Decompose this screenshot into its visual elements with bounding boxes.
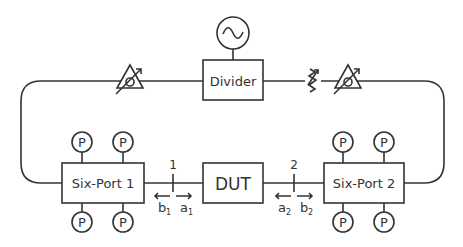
variable-attenuator-icon	[305, 69, 321, 92]
six-port-1-label: Six-Port 1	[72, 176, 134, 191]
svg-text:1: 1	[188, 208, 193, 217]
six-port-1-block: Six-Port 1	[62, 152, 144, 212]
plane-2-label: 2	[290, 158, 298, 172]
power-detector-icon: P	[113, 132, 133, 152]
dut-label: DUT	[215, 174, 252, 194]
svg-text:P: P	[380, 135, 388, 150]
svg-text:P: P	[339, 215, 347, 230]
svg-text:a: a	[278, 200, 286, 215]
svg-text:P: P	[78, 135, 86, 150]
svg-text:1: 1	[166, 208, 171, 217]
power-detector-icon: P	[374, 132, 394, 152]
svg-text:P: P	[119, 215, 127, 230]
power-detector-icon: P	[374, 212, 394, 232]
arrow-left-icon	[155, 193, 170, 199]
divider-label: Divider	[210, 74, 257, 89]
power-detector-icon: P	[72, 212, 92, 232]
divider-block: Divider	[203, 60, 263, 100]
reference-plane-2: 2 a 2 b 2	[276, 158, 313, 217]
reference-plane-1: 1 b 1 a 1	[155, 158, 193, 217]
svg-text:2: 2	[308, 208, 313, 217]
svg-text:P: P	[78, 215, 86, 230]
six-port-2-block: Six-Port 2	[324, 152, 404, 212]
dut-block: DUT	[203, 163, 263, 203]
power-detector-icon: P	[333, 212, 353, 232]
six-port-2-label: Six-Port 2	[333, 176, 395, 191]
power-detector-icon: P	[113, 212, 133, 232]
svg-text:P: P	[119, 135, 127, 150]
power-detector-icon: P	[72, 132, 92, 152]
sine-source-icon	[217, 17, 249, 60]
svg-text:a: a	[180, 200, 188, 215]
arrow-right-icon	[176, 193, 191, 199]
power-detector-icon: P	[333, 132, 353, 152]
svg-text:P: P	[339, 135, 347, 150]
svg-text:2: 2	[286, 208, 291, 217]
plane-1-label: 1	[169, 158, 177, 172]
diagram-canvas: Divider Six-Port 1 P P	[0, 0, 463, 247]
phase-shifter-icon	[334, 65, 361, 94]
phase-shifter-icon	[116, 65, 143, 94]
arrow-right-icon	[297, 193, 312, 199]
svg-text:P: P	[380, 215, 388, 230]
arrow-left-icon	[276, 193, 291, 199]
